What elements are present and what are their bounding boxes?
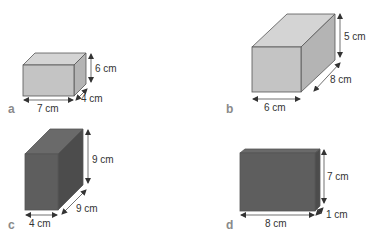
cuboid-a-length-label: 7 cm — [37, 103, 59, 114]
cuboid-d-front-face — [240, 153, 315, 211]
cuboid-c-width-label: 9 cm — [76, 203, 98, 214]
cuboid-d-top-face — [240, 149, 320, 153]
cuboid-c-tag: c — [8, 218, 15, 232]
cuboid-a-tag: a — [8, 102, 15, 116]
cuboid-a: 6 cm 4 cm 7 cm a — [8, 53, 117, 116]
cuboid-d: 7 cm 1 cm 8 cm d — [226, 149, 349, 232]
cuboid-c-front-face — [25, 154, 58, 210]
cuboid-a-width-label: 4 cm — [81, 93, 103, 104]
cuboid-diagram: 6 cm 4 cm 7 cm a 5 cm 8 cm 6 cm b 9 cm 9… — [0, 0, 373, 244]
cuboid-c-height-label: 9 cm — [92, 154, 114, 165]
cuboid-d-width-label: 1 cm — [326, 209, 348, 220]
cuboid-d-height-label: 7 cm — [327, 171, 349, 182]
cuboid-a-height-label: 6 cm — [95, 63, 117, 74]
cuboid-d-tag: d — [226, 218, 233, 232]
cuboid-b-front-face — [252, 47, 301, 92]
cuboid-a-front-face — [23, 65, 74, 96]
cuboid-b-width-label: 8 cm — [330, 74, 352, 85]
cuboid-b-length-label: 6 cm — [264, 102, 286, 113]
cuboid-c-length-label: 4 cm — [29, 218, 51, 229]
cuboid-d-side-face — [315, 149, 320, 211]
cuboid-d-length-label: 8 cm — [265, 218, 287, 229]
cuboid-b-tag: b — [226, 102, 233, 116]
cuboid-b: 5 cm 8 cm 6 cm b — [226, 14, 366, 116]
cuboid-c: 9 cm 9 cm 4 cm c — [8, 129, 114, 232]
cuboid-b-height-label: 5 cm — [344, 31, 366, 42]
